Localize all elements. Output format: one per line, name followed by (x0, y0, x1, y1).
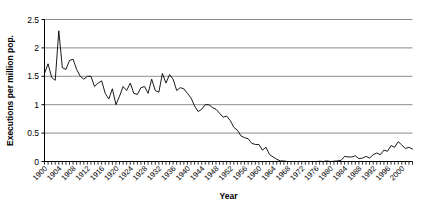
executions-per-million-line-chart: 00.511.522.5 190019041908191219161920192… (0, 0, 429, 206)
y-axis-title: Executions per million pop. (5, 35, 15, 146)
chart-container: 00.511.522.5 190019041908191219161920192… (0, 0, 429, 206)
x-axis-title: Year (220, 191, 239, 201)
y-tick-label: 0 (34, 157, 39, 167)
y-tick-label: 1.5 (27, 71, 39, 81)
y-tick-label: 1 (34, 100, 39, 110)
y-tick-label: 0.5 (27, 128, 39, 138)
y-tick-label: 2.5 (27, 15, 39, 25)
y-tick-label: 2 (34, 43, 39, 53)
